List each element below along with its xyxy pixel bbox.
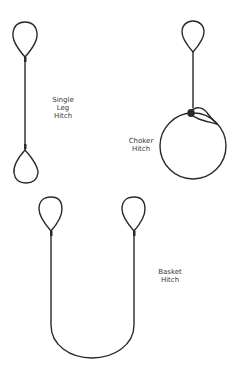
label-line: Hitch — [48, 112, 78, 120]
choker-hitch-label: Choker Hitch — [126, 137, 156, 153]
choker-top-eye — [182, 21, 204, 52]
sling-diagram — [0, 0, 238, 379]
label-line: Leg — [48, 104, 78, 112]
label-line: Single — [48, 96, 78, 104]
single-leg-hitch-label: Single Leg Hitch — [48, 96, 78, 120]
label-line: Choker — [126, 137, 156, 145]
single-leg-bottom-eye — [14, 150, 38, 183]
basket-right-eye — [122, 197, 145, 231]
basket-hitch-label: Basket Hitch — [155, 268, 185, 284]
label-line: Hitch — [126, 145, 156, 153]
single-leg-hitch-drawing — [13, 22, 38, 183]
label-line: Basket — [155, 268, 185, 276]
label-line: Hitch — [155, 276, 185, 284]
choker-hitch-drawing — [160, 21, 226, 179]
basket-left-eye — [39, 197, 62, 231]
basket-hitch-drawing — [39, 197, 145, 358]
basket-u — [51, 231, 134, 358]
single-leg-top-eye — [13, 22, 37, 57]
